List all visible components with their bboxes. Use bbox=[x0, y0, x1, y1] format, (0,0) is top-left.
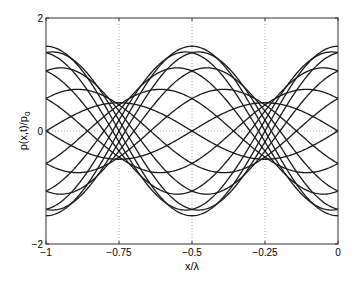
y-tick-label: 0 bbox=[37, 126, 43, 137]
x-tick-label: −0.5 bbox=[182, 247, 202, 258]
x-tick-labels: −1−0.75−0.5−0.250 bbox=[40, 247, 341, 258]
y-axis-label: p(x,t)/p0 bbox=[17, 111, 32, 150]
y-tick-label: 2 bbox=[37, 13, 43, 24]
x-tick-label: 0 bbox=[335, 247, 341, 258]
wave-curves bbox=[46, 46, 338, 216]
y-tick-labels: −202 bbox=[32, 13, 44, 250]
y-tick-label: −2 bbox=[32, 239, 44, 250]
x-tick-label: −0.75 bbox=[106, 247, 132, 258]
x-tick-label: −0.25 bbox=[252, 247, 278, 258]
x-axis-label: x/λ bbox=[185, 260, 200, 272]
y-axis-label-main: p(x,t)/p bbox=[17, 116, 29, 150]
standing-wave-chart: −1−0.75−0.5−0.250 −202 x/λ p(x,t)/p0 bbox=[0, 0, 358, 290]
y-axis-label-subscript: 0 bbox=[23, 111, 32, 116]
